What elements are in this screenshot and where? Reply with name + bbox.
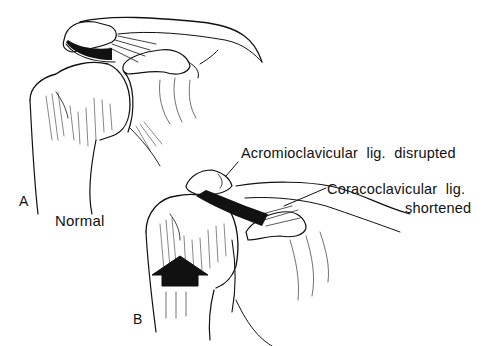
label-coracoclavicular-ligament-line2: shortened bbox=[405, 201, 471, 216]
label-coracoclavicular-ligament-line1: Coracoclavicular lig. bbox=[327, 182, 465, 197]
panel-a-letter: A bbox=[19, 194, 29, 208]
upward-force-arrow-icon bbox=[152, 256, 208, 286]
panel-b-letter: B bbox=[133, 312, 143, 326]
panel-a-caption: Normal bbox=[55, 213, 105, 228]
shoulder-illustration bbox=[0, 0, 486, 346]
panel-a-drawing bbox=[30, 17, 262, 214]
label-acromioclavicular-ligament: Acromioclavicular lig. disrupted bbox=[241, 146, 456, 161]
